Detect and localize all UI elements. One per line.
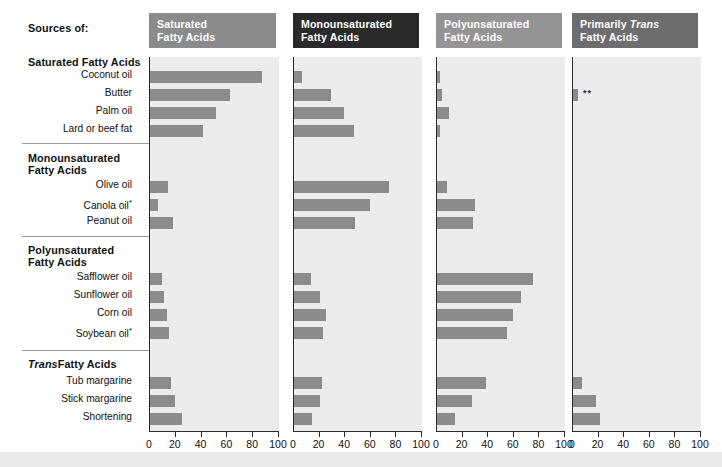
panel-monounsaturated: MonounsaturatedFatty Acids020406080100 <box>293 0 422 452</box>
row-label-i6: Peanut oil <box>0 215 140 227</box>
bar-saturated-10 <box>150 327 169 339</box>
x-tick-label-saturated-40: 40 <box>188 438 214 450</box>
x-tick-primarily_trans-40 <box>623 432 624 437</box>
bar-saturated-8 <box>150 291 164 303</box>
bottom-band <box>0 452 722 467</box>
bar-monounsaturated-9 <box>294 309 326 321</box>
bar-monounsaturated-7 <box>294 273 311 285</box>
row-label-i11: Tub margarine <box>0 375 140 387</box>
column-header-monounsaturated: MonounsaturatedFatty Acids <box>293 13 419 48</box>
x-tick-label-monounsaturated-0: 0 <box>280 438 306 450</box>
group-heading-monounsaturated: MonounsaturatedFatty Acids <box>28 152 168 176</box>
x-tick-label-primarily_trans-20: 20 <box>585 438 611 450</box>
plot-area-polyunsaturated <box>436 57 565 431</box>
bar-saturated-9 <box>150 309 167 321</box>
x-tick-label-polyunsaturated-80: 80 <box>525 438 551 450</box>
x-tick-saturated-80 <box>252 432 253 437</box>
bar-monounsaturated-6 <box>294 217 355 229</box>
column-header-saturated: SaturatedFatty Acids <box>149 13 276 48</box>
bar-saturated-0 <box>150 71 262 83</box>
x-tick-label-polyunsaturated-0: 0 <box>423 438 449 450</box>
bar-saturated-5 <box>150 199 158 211</box>
x-tick-saturated-40 <box>201 432 202 437</box>
plot-area-primarily_trans <box>572 57 701 431</box>
x-tick-saturated-60 <box>226 432 227 437</box>
row-label-i1: Butter <box>0 87 140 99</box>
x-axis-primarily_trans <box>572 431 701 432</box>
group-heading-saturated: Saturated Fatty Acids <box>28 56 168 68</box>
bar-polyunsaturated-13 <box>437 413 455 425</box>
bar-polyunsaturated-0 <box>437 71 440 83</box>
bar-polyunsaturated-11 <box>437 377 486 389</box>
x-tick-polyunsaturated-60 <box>513 432 514 437</box>
x-tick-label-saturated-60: 60 <box>213 438 239 450</box>
row-label-i8: Sunflower oil <box>0 289 140 301</box>
fatty-acid-chart: Sources of:Saturated Fatty AcidsMonounsa… <box>0 0 722 467</box>
bar-monounsaturated-11 <box>294 377 322 389</box>
asterisk-marker: * <box>129 198 132 207</box>
x-tick-polyunsaturated-80 <box>538 432 539 437</box>
bar-saturated-13 <box>150 413 182 425</box>
bar-saturated-3 <box>150 125 203 137</box>
bar-polyunsaturated-6 <box>437 217 473 229</box>
x-tick-label-polyunsaturated-60: 60 <box>500 438 526 450</box>
group-divider-1 <box>22 236 149 237</box>
bar-monounsaturated-2 <box>294 107 344 119</box>
x-tick-label-primarily_trans-0: 0 <box>559 438 585 450</box>
x-tick-label-polyunsaturated-20: 20 <box>449 438 475 450</box>
bar-primarily_trans-1 <box>573 89 578 101</box>
x-tick-monounsaturated-60 <box>370 432 371 437</box>
bar-polyunsaturated-10 <box>437 327 507 339</box>
bar-primarily_trans-12 <box>573 395 596 407</box>
x-tick-primarily_trans-100 <box>700 432 701 437</box>
bar-polyunsaturated-5 <box>437 199 475 211</box>
group-divider-0 <box>22 143 149 144</box>
x-tick-label-primarily_trans-100: 100 <box>687 438 713 450</box>
x-tick-primarily_trans-60 <box>649 432 650 437</box>
bar-saturated-2 <box>150 107 216 119</box>
bar-polyunsaturated-7 <box>437 273 533 285</box>
bar-saturated-4 <box>150 181 168 193</box>
bar-monounsaturated-10 <box>294 327 323 339</box>
bar-monounsaturated-3 <box>294 125 354 137</box>
x-tick-primarily_trans-20 <box>598 432 599 437</box>
bar-primarily_trans-11 <box>573 377 582 389</box>
x-tick-label-primarily_trans-60: 60 <box>636 438 662 450</box>
annotation-primarily_trans-1: ** <box>583 88 592 98</box>
x-tick-label-monounsaturated-60: 60 <box>357 438 383 450</box>
row-label-i7: Safflower oil <box>0 271 140 283</box>
bar-polyunsaturated-2 <box>437 107 449 119</box>
row-label-i9: Corn oil <box>0 307 140 319</box>
x-axis-monounsaturated <box>293 431 422 432</box>
x-tick-label-saturated-0: 0 <box>136 438 162 450</box>
bar-polyunsaturated-9 <box>437 309 513 321</box>
row-label-i0: Coconut oil <box>0 69 140 81</box>
x-tick-polyunsaturated-20 <box>462 432 463 437</box>
x-axis-saturated <box>149 431 279 432</box>
row-label-i5: Canola oil* <box>0 197 140 212</box>
x-tick-polyunsaturated-100 <box>564 432 565 437</box>
row-label-i4: Olive oil <box>0 179 140 191</box>
bar-polyunsaturated-4 <box>437 181 447 193</box>
x-tick-label-polyunsaturated-40: 40 <box>474 438 500 450</box>
column-header-polyunsaturated: PolyunsaturatedFatty Acids <box>436 13 562 48</box>
x-tick-label-monounsaturated-80: 80 <box>382 438 408 450</box>
x-tick-polyunsaturated-40 <box>487 432 488 437</box>
bar-saturated-1 <box>150 89 230 101</box>
bar-primarily_trans-13 <box>573 413 600 425</box>
x-tick-monounsaturated-80 <box>395 432 396 437</box>
panel-primarily_trans: Primarily TransFatty Acids020406080100** <box>572 0 701 452</box>
x-tick-label-primarily_trans-40: 40 <box>610 438 636 450</box>
x-tick-label-saturated-20: 20 <box>162 438 188 450</box>
label-column: Sources of:Saturated Fatty AcidsMonounsa… <box>0 0 149 452</box>
row-label-i2: Palm oil <box>0 105 140 117</box>
row-label-i10: Soybean oil* <box>0 325 140 340</box>
asterisk-marker: * <box>129 326 132 335</box>
x-tick-label-monounsaturated-40: 40 <box>331 438 357 450</box>
x-tick-primarily_trans-80 <box>674 432 675 437</box>
bar-saturated-11 <box>150 377 171 389</box>
bar-monounsaturated-1 <box>294 89 331 101</box>
x-tick-saturated-100 <box>278 432 279 437</box>
x-tick-label-primarily_trans-80: 80 <box>661 438 687 450</box>
row-label-i3: Lard or beef fat <box>0 123 140 135</box>
